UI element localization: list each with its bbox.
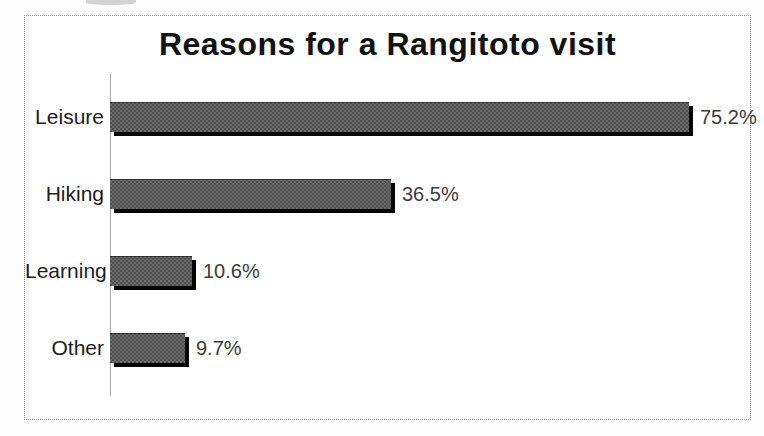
bar-row: Hiking 36.5% [25, 179, 750, 209]
category-label: Hiking [25, 182, 110, 206]
scan-artifact [86, 0, 136, 5]
bar-row: Learning 10.6% [25, 256, 750, 286]
value-label: 36.5% [402, 183, 459, 206]
bar [110, 102, 689, 132]
chart-frame: Reasons for a Rangitoto visit Leisure 75… [24, 15, 751, 420]
bar-row: Leisure 75.2% [25, 102, 750, 132]
value-label: 10.6% [203, 260, 260, 283]
category-label: Other [25, 336, 110, 360]
chart-title: Reasons for a Rangitoto visit [25, 26, 750, 63]
bar [110, 256, 192, 286]
category-label: Learning [25, 259, 110, 283]
bar-row: Other 9.7% [25, 333, 750, 363]
value-label: 75.2% [700, 106, 757, 129]
value-label: 9.7% [196, 337, 242, 360]
chart-image: Reasons for a Rangitoto visit Leisure 75… [0, 0, 764, 436]
bar [110, 333, 185, 363]
bar [110, 179, 391, 209]
category-label: Leisure [25, 105, 110, 129]
